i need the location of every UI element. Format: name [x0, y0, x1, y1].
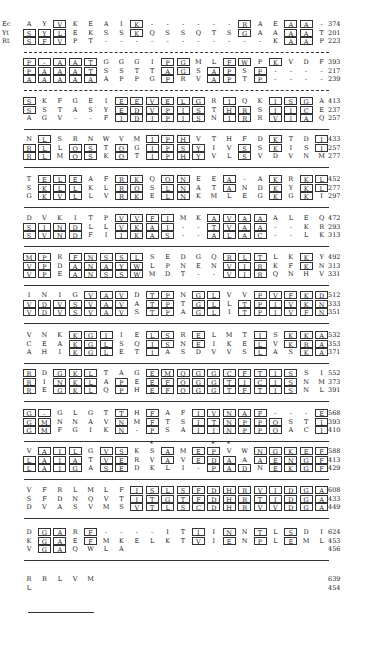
- residue: G: [38, 528, 51, 536]
- residue: D: [130, 464, 143, 472]
- residue: V: [53, 308, 66, 316]
- residue: A: [161, 456, 174, 464]
- residue: N: [315, 308, 328, 316]
- residue: P: [115, 75, 128, 83]
- residue: M: [177, 214, 190, 222]
- residue: L: [223, 300, 236, 308]
- alignment-row: L454: [0, 584, 367, 592]
- residue: E: [315, 106, 328, 114]
- residue: -: [315, 75, 328, 83]
- residue: M: [315, 378, 328, 386]
- residue: L: [23, 456, 36, 464]
- residue: R: [238, 495, 251, 503]
- residue: A: [315, 340, 328, 348]
- residue: G: [115, 58, 128, 66]
- residue: -: [284, 223, 297, 231]
- residue: I: [269, 97, 282, 105]
- residue: P: [254, 537, 267, 545]
- residue: M: [161, 369, 174, 377]
- residue: A: [161, 348, 174, 356]
- residue: D: [69, 231, 82, 239]
- residue: G: [300, 495, 313, 503]
- residue: V: [53, 37, 66, 45]
- residue: A: [38, 75, 51, 83]
- residue: G: [23, 418, 36, 426]
- residue: D: [207, 486, 220, 494]
- residue: L: [207, 58, 220, 66]
- residue: G: [192, 308, 205, 316]
- residue: -: [269, 67, 282, 75]
- alignment-row: VPEANSSWMDT--VIRQNHV331: [0, 270, 367, 278]
- residue: L: [223, 192, 236, 200]
- residue: I: [284, 144, 297, 152]
- residue-position: 624: [328, 528, 340, 536]
- residue: P: [161, 152, 174, 160]
- residue: G: [161, 495, 174, 503]
- residue: I: [269, 486, 282, 494]
- residue: F: [161, 378, 174, 386]
- residue: K: [115, 537, 128, 545]
- residue: M: [100, 503, 113, 511]
- residue: F: [223, 58, 236, 66]
- residue: T: [238, 300, 251, 308]
- residue: Y: [38, 20, 51, 28]
- residue: L: [315, 184, 328, 192]
- residue: I: [115, 20, 128, 28]
- residue: K: [300, 262, 313, 270]
- residue: K: [84, 184, 97, 192]
- residue: F: [53, 97, 66, 105]
- residue: V: [100, 447, 113, 455]
- residue: S: [23, 106, 36, 114]
- residue: A: [84, 418, 97, 426]
- residue: S: [23, 495, 36, 503]
- residue: V: [207, 152, 220, 160]
- residue: K: [84, 29, 97, 37]
- residue: N: [84, 135, 97, 143]
- residue: A: [53, 340, 66, 348]
- residue: A: [300, 20, 313, 28]
- residue-position: 391: [328, 386, 340, 394]
- residue: -: [146, 37, 159, 45]
- residue: Q: [130, 184, 143, 192]
- residue-position: 492: [328, 253, 340, 261]
- residue: K: [269, 192, 282, 200]
- residue: G: [192, 369, 205, 377]
- residue: I: [146, 114, 159, 122]
- species-label: Yt: [2, 29, 9, 37]
- residue: T: [100, 144, 113, 152]
- residue: I: [269, 300, 282, 308]
- residue: K: [269, 175, 282, 183]
- residue: G: [130, 58, 143, 66]
- residue: N: [177, 262, 190, 270]
- residue: V: [115, 223, 128, 231]
- residue: D: [38, 300, 51, 308]
- residue: A: [207, 214, 220, 222]
- residue: S: [254, 144, 267, 152]
- residue: W: [130, 262, 143, 270]
- residue: S: [115, 503, 128, 511]
- residue: F: [69, 253, 82, 261]
- residue: A: [269, 348, 282, 356]
- residue: V: [223, 447, 236, 455]
- alignment-row: RINKLAPEEFQGGTICISNM373: [0, 378, 367, 386]
- residue: T: [177, 495, 190, 503]
- residue: I: [100, 97, 113, 105]
- residue: A: [315, 331, 328, 339]
- residue: T: [238, 75, 251, 83]
- residue: G: [254, 192, 267, 200]
- residue: -: [192, 37, 205, 45]
- residue: -: [38, 58, 51, 66]
- residue: K: [269, 184, 282, 192]
- residue: A: [254, 223, 267, 231]
- residue: A: [207, 231, 220, 239]
- residue: V: [223, 291, 236, 299]
- residue: S: [146, 184, 159, 192]
- block-separator: [24, 52, 329, 53]
- residue: T: [300, 418, 313, 426]
- residue: S: [23, 37, 36, 45]
- block-separator: [24, 285, 329, 286]
- residue: S: [100, 29, 113, 37]
- residue: K: [269, 144, 282, 152]
- residue: I: [284, 106, 297, 114]
- species-label: Ec: [2, 20, 10, 28]
